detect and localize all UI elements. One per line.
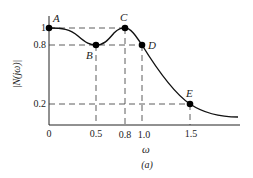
y-tick-1: 1: [41, 22, 46, 33]
x-tick-1.5: 1.5: [185, 128, 198, 139]
x-tick-0.8: 0.8: [119, 129, 132, 140]
guide-lines: [49, 28, 190, 125]
point-label-a: A: [52, 12, 60, 24]
marked-points: [46, 25, 194, 108]
x-axis-label: ω: [142, 143, 150, 155]
point-label-b: B: [86, 49, 93, 61]
point-label-e: E: [185, 87, 193, 99]
y-tick-0.2: 0.2: [34, 98, 47, 109]
x-tick-0: 0: [47, 128, 52, 139]
point-label-c: C: [120, 11, 128, 23]
magnitude-response-plot: A B C D E 1 0.8 0.2 0 0.5 0.8 1.0 1.5 ω …: [0, 0, 253, 178]
x-tick-1.0: 1.0: [138, 129, 151, 140]
y-axis-label: |N(jω)|: [11, 60, 23, 89]
point-label-d: D: [147, 39, 156, 51]
x-tick-0.5: 0.5: [90, 128, 103, 139]
y-tick-0.8: 0.8: [34, 39, 47, 50]
figure-caption: (a): [141, 159, 153, 171]
